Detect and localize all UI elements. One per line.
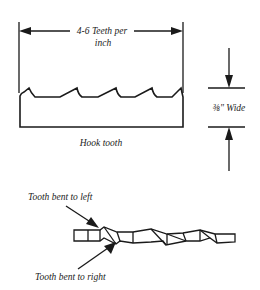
hook-tooth-label: Hook tooth bbox=[79, 138, 123, 148]
width-dimension: ⅜" Wide bbox=[208, 48, 245, 171]
blade-outline bbox=[20, 88, 183, 127]
bandsaw-blade-diagram: 4-6 Teeth per inch Hook tooth ⅜" Wide To… bbox=[0, 0, 260, 290]
left-arrowhead-icon bbox=[19, 27, 31, 35]
teeth-per-inch-label-line2: inch bbox=[95, 38, 112, 48]
diagram-svg: 4-6 Teeth per inch Hook tooth ⅜" Wide To… bbox=[0, 0, 260, 290]
down-arrowhead-icon bbox=[225, 75, 233, 88]
bent-right-leader bbox=[78, 248, 108, 269]
set-teeth-top-view bbox=[74, 227, 235, 245]
bent-left-callout: Tooth bent to left bbox=[28, 192, 99, 228]
bent-right-arrowhead-icon bbox=[104, 242, 116, 254]
bent-left-label: Tooth bent to left bbox=[28, 192, 93, 202]
bent-left-arrowhead-icon bbox=[86, 217, 99, 228]
right-arrowhead-icon bbox=[171, 27, 183, 35]
set-teeth-outline bbox=[74, 227, 235, 245]
hook-tooth-blade bbox=[20, 88, 183, 127]
teeth-per-inch-label: 4-6 Teeth per bbox=[77, 26, 128, 36]
teeth-per-inch-dimension: 4-6 Teeth per inch bbox=[19, 22, 183, 93]
bent-right-label: Tooth bent to right bbox=[35, 272, 106, 282]
tooth-divider bbox=[117, 232, 120, 241]
bent-right-callout: Tooth bent to right bbox=[35, 242, 116, 282]
bent-left-leader bbox=[66, 206, 92, 223]
width-label: ⅜" Wide bbox=[213, 103, 246, 113]
